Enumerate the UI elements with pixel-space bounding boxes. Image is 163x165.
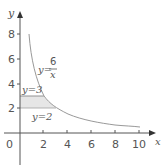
- shaded-region: [20, 96, 56, 108]
- x-tick-6: 6: [88, 138, 95, 151]
- x-tick-4: 4: [64, 138, 71, 151]
- curve-label-denominator: x: [50, 69, 56, 80]
- y-axis-arrow-icon: [17, 11, 23, 18]
- y-axis-label: y: [7, 7, 15, 20]
- x-tick-10: 10: [132, 138, 146, 151]
- x-tick-2: 2: [40, 138, 47, 151]
- curve-label-numerator: 6: [50, 56, 56, 67]
- y-tick-8: 8: [8, 28, 15, 41]
- origin-label: 0: [6, 138, 13, 151]
- graph: y x 0 8 6 4 2 2 4 6 8 10 y= 6 x y=3 y=2: [0, 0, 163, 165]
- label-y2: y=2: [31, 111, 52, 122]
- label-y3: y=3: [21, 84, 42, 95]
- y-tick-2: 2: [8, 102, 15, 115]
- x-tick-8: 8: [112, 138, 119, 151]
- y-tick-6: 6: [8, 53, 15, 66]
- x-axis-label: x: [155, 136, 161, 147]
- y-tick-4: 4: [8, 78, 15, 91]
